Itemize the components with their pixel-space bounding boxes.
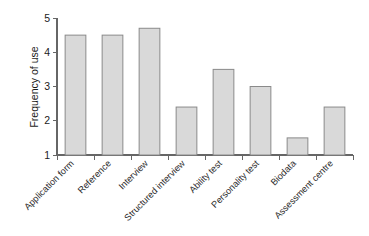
y-tick-label: 3 bbox=[44, 80, 50, 92]
bar-6 bbox=[287, 138, 308, 155]
bars-group bbox=[65, 28, 345, 155]
y-tick-label: 4 bbox=[44, 46, 50, 58]
y-axis-title: Frequency of use bbox=[28, 46, 40, 127]
y-tick-label: 1 bbox=[44, 149, 50, 161]
y-tick-label: 5 bbox=[44, 12, 50, 24]
bar-0 bbox=[65, 35, 86, 155]
category-label: Biodata bbox=[269, 158, 299, 188]
category-label: Interview bbox=[117, 158, 150, 191]
bar-chart: 12345 Frequency of use Application formR… bbox=[0, 0, 369, 236]
bar-3 bbox=[176, 107, 197, 155]
category-label: Reference bbox=[76, 158, 113, 195]
y-tick-group: 12345 bbox=[44, 12, 57, 161]
category-labels-group: Application formReferenceInterviewStruct… bbox=[22, 158, 335, 223]
y-axis-group: 12345 Frequency of use bbox=[28, 12, 57, 161]
x-tick-group bbox=[57, 155, 353, 160]
x-axis-group bbox=[57, 155, 353, 160]
bar-4 bbox=[213, 69, 234, 155]
category-label: Ability test bbox=[187, 158, 224, 195]
bar-7 bbox=[324, 107, 345, 155]
bar-2 bbox=[139, 28, 160, 155]
chart-canvas: 12345 Frequency of use Application formR… bbox=[0, 0, 369, 236]
category-label: Application form bbox=[22, 158, 76, 212]
bar-5 bbox=[250, 87, 271, 156]
y-tick-label: 2 bbox=[44, 114, 50, 126]
bar-1 bbox=[102, 35, 123, 155]
